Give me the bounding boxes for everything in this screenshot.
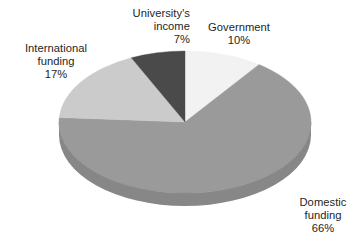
pie-label-university-income-name: University's [104,7,190,20]
pie-label-international-funding-name2: funding [8,55,104,68]
pie-label-international-funding-name: International [8,42,104,55]
pie-label-government-name: Government [196,21,282,34]
pie-label-domestic-funding: Domestic funding 66% [288,196,358,236]
pie-label-domestic-funding-name: Domestic [288,196,358,209]
pie-label-government-value: 10% [196,34,282,47]
pie-label-international-funding-value: 17% [8,68,104,81]
pie-label-university-income: University's income 7% [104,7,190,47]
pie-label-domestic-funding-value: 66% [288,222,358,235]
pie-chart: University's income 7% Government 10% In… [0,0,362,247]
pie-label-university-income-name2: income [104,20,190,33]
pie-label-government: Government 10% [196,21,282,47]
pie-label-international-funding: International funding 17% [8,42,104,82]
pie-label-university-income-value: 7% [104,33,190,46]
pie-label-domestic-funding-name2: funding [288,209,358,222]
